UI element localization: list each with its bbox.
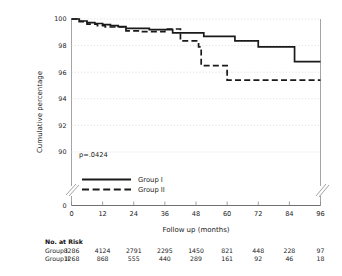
y-tick-label-98: 98 [58, 42, 66, 50]
x-tick-label-96: 96 [316, 210, 324, 218]
p-value-annotation: p=.0424 [79, 151, 108, 159]
y-tick-label-90: 90 [58, 148, 66, 156]
y-tick-label-96: 96 [58, 69, 66, 77]
risk-cell: 8286 [64, 247, 80, 254]
x-tick-label-0: 0 [69, 210, 73, 218]
risk-cell: 1268 [64, 255, 80, 262]
y-tick-label-92: 92 [58, 122, 66, 130]
risk-cell: 18 [317, 255, 325, 262]
legend-label-group-i: Group I [138, 176, 163, 184]
risk-cell: 289 [190, 255, 202, 262]
x-tick-label-48: 48 [192, 210, 200, 218]
risk-cell: 868 [97, 255, 109, 262]
risk-cell: 440 [159, 255, 171, 262]
x-tick-label-60: 60 [223, 210, 231, 218]
x-tick-label-36: 36 [161, 210, 169, 218]
risk-cell: 2295 [157, 247, 173, 254]
risk-cell: 555 [128, 255, 140, 262]
risk-cell: 92 [254, 255, 262, 262]
x-tick-label-84: 84 [285, 210, 293, 218]
risk-cell: 2791 [126, 247, 142, 254]
figure-background [0, 0, 342, 276]
y-tick-label-100: 100 [54, 15, 66, 23]
x-tick-label-72: 72 [254, 210, 262, 218]
risk-table-title: No. at Risk [45, 238, 84, 245]
legend-label-group-ii: Group II [138, 186, 165, 194]
risk-cell: 1450 [188, 247, 204, 254]
survival-curve-figure: 90929496981000 01224364860728496 p=.0424… [0, 0, 342, 276]
x-tick-label-24: 24 [130, 210, 138, 218]
risk-cell: 4124 [95, 247, 111, 254]
x-axis-title: Follow up (months) [162, 226, 229, 234]
y-axis-title: Cumulative percentage [36, 71, 44, 153]
risk-cell: 448 [252, 247, 264, 254]
y-tick-label-94: 94 [58, 95, 66, 103]
risk-cell: 228 [283, 247, 295, 254]
risk-cell: 97 [317, 247, 325, 254]
x-tick-label-12: 12 [98, 210, 106, 218]
risk-cell: 161 [221, 255, 233, 262]
risk-cell: 46 [285, 255, 293, 262]
risk-cell: 821 [221, 247, 233, 254]
y-tick-label-0: 0 [62, 202, 66, 210]
